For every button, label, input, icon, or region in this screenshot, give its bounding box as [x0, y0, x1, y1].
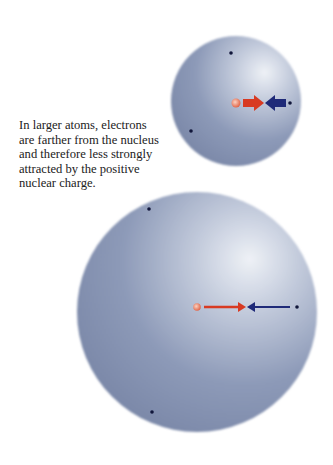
- electron-icon: [147, 207, 151, 211]
- electron-icon: [229, 51, 233, 55]
- electron-icon: [295, 305, 299, 309]
- caption-line: are farther from the nucleus: [19, 133, 189, 148]
- nucleus-icon: [232, 99, 241, 108]
- caption-line: attracted by the positive: [19, 162, 189, 177]
- caption-line: nuclear charge.: [19, 176, 189, 191]
- small-atom: [171, 36, 301, 166]
- electron-icon: [150, 410, 154, 414]
- large-atom: [77, 192, 317, 432]
- caption-line: In larger atoms, electrons: [19, 118, 189, 133]
- caption-line: and therefore less strongly: [19, 147, 189, 162]
- atom-diagram: [0, 0, 333, 465]
- caption: In larger atoms, electrons are farther f…: [19, 118, 189, 191]
- large-atom-sphere: [77, 192, 317, 432]
- electron-icon: [288, 101, 292, 105]
- electron-icon: [189, 129, 193, 133]
- nucleus-icon: [193, 303, 201, 311]
